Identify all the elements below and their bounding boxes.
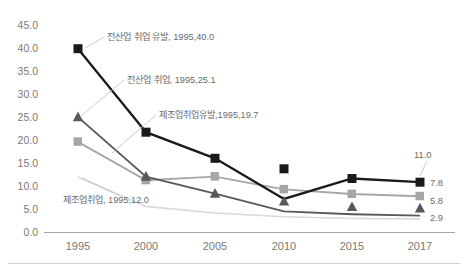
data-point-marker [416, 178, 425, 187]
y-tick-label-25: 25.0 [18, 111, 39, 123]
end-value-label-78: 7.8 [430, 177, 443, 188]
annotation-leader-line [85, 37, 104, 48]
series-line-allindustry-induced [78, 49, 420, 199]
x-tick-label-1995: 1995 [66, 240, 90, 252]
y-tick-label-15: 15.0 [18, 157, 39, 169]
annotation-label-manufacturing-induced: 제조업취업유발,1995,19.7 [159, 109, 258, 120]
data-point-marker [73, 112, 83, 122]
data-point-marker [74, 137, 83, 146]
data-point-marker [347, 201, 357, 211]
annotation-label-allindustry-induced: 전산업 취업 유발, 1995,40.0 [107, 31, 214, 42]
data-point-marker [280, 164, 289, 173]
end-value-label-11: 11.0 [414, 149, 432, 160]
series-line-manufacturing-induced [78, 142, 420, 197]
y-tick-label-30: 30.0 [18, 88, 39, 100]
data-point-marker [211, 172, 220, 181]
y-tick-label-20: 20.0 [18, 134, 39, 146]
chart-canvas: 45.0 40.0 35.0 30.0 25.0 20.0 15.0 10.0 … [0, 0, 468, 269]
annotation-label-allindustry-employment: 전산업 취업, 1995,25.1 [127, 74, 216, 85]
data-point-marker [416, 192, 425, 201]
end-value-label-58: 5.8 [430, 195, 443, 206]
data-point-marker [348, 190, 357, 199]
y-tick-label-35: 35.0 [18, 65, 39, 77]
y-tick-label-0: 0.0 [23, 226, 38, 238]
y-tick-label-10: 10.0 [18, 180, 39, 192]
annotation-label-manufacturing-employment: 제조업취업, 1995,12.0 [63, 194, 149, 205]
end-label-leader-line [420, 161, 427, 176]
data-point-marker [348, 174, 357, 183]
end-value-label-29: 2.9 [430, 212, 443, 223]
data-point-marker [280, 185, 289, 194]
x-tick-label-2005: 2005 [203, 240, 227, 252]
x-tick-label-2000: 2000 [134, 240, 158, 252]
y-tick-label-45: 45.0 [18, 19, 39, 31]
data-point-marker [142, 128, 151, 137]
x-tick-label-2017: 2017 [408, 240, 432, 252]
y-tick-label-5: 5.0 [23, 203, 38, 215]
data-point-marker [211, 154, 220, 163]
line-chart: 45.0 40.0 35.0 30.0 25.0 20.0 15.0 10.0 … [0, 0, 468, 269]
x-tick-label-2010: 2010 [272, 240, 296, 252]
annotation-leader-line [82, 178, 120, 196]
y-tick-label-40: 40.0 [18, 42, 39, 54]
x-tick-label-2015: 2015 [340, 240, 364, 252]
data-point-marker [415, 203, 425, 213]
data-point-marker [74, 44, 83, 53]
